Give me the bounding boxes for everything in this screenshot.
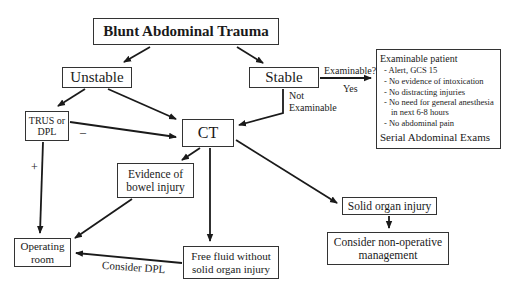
ct-node: CT — [182, 119, 234, 147]
solid-organ-node: Solid organ injury — [342, 197, 437, 215]
not-label: Not — [289, 91, 304, 102]
operating-room-line1: Operating — [21, 240, 65, 252]
bowel-injury-line1: Evidence of — [128, 168, 183, 181]
examinable-criteria-list: - Alert, GCS 15 - No evidence of intoxic… — [380, 66, 500, 130]
criteria-item: - No need for general anesthesia in next… — [384, 98, 500, 118]
bowel-injury-line2: bowel injury — [126, 181, 184, 194]
positive-result-label: + — [31, 161, 38, 174]
arrow-trus-or — [40, 142, 43, 233]
arrow-stable-ct — [239, 89, 283, 125]
arrow-unstable-trus — [58, 89, 85, 106]
trus-label-line1: TRUS or — [29, 115, 65, 126]
non-operative-line1: Consider non-operative — [334, 236, 442, 249]
free-fluid-line2: solid organ injury — [192, 263, 270, 275]
yes-label: Yes — [343, 84, 358, 95]
arrow-title-unstable — [124, 47, 150, 62]
examinable-label: Examinable — [289, 103, 337, 114]
trus-dpl-node: TRUS or DPL — [25, 111, 69, 141]
operating-room-node: Operating room — [14, 238, 71, 267]
non-operative-node: Consider non-operative management — [327, 232, 449, 265]
arrow-evidence-or — [75, 199, 132, 238]
solid-organ-label: Solid organ injury — [348, 200, 431, 213]
criteria-item: - No distracting injuries — [384, 88, 500, 98]
title-text: Blunt Abdominal Trauma — [103, 23, 268, 40]
arrow-unstable-ct — [108, 89, 176, 119]
arrow-title-stable — [237, 47, 263, 63]
free-fluid-node: Free fluid without solid organ injury — [183, 246, 279, 279]
examinable-heading: Examinable patient — [380, 53, 457, 64]
criteria-item: - Alert, GCS 15 — [384, 66, 500, 76]
non-operative-line2: management — [359, 249, 418, 262]
ct-label: CT — [198, 124, 218, 142]
operating-room-line2: room — [31, 253, 54, 265]
free-fluid-line1: Free fluid without — [191, 250, 270, 262]
arrow-ct-evidence — [182, 148, 200, 160]
arrow-ct-solid — [236, 140, 337, 203]
stable-label: Stable — [265, 69, 303, 86]
stable-node: Stable — [249, 67, 319, 88]
criteria-item: - No evidence of intoxication — [384, 77, 500, 87]
examinable-footer: Serial Abdominal Exams — [380, 131, 490, 143]
examinable-patient-node: Examinable patient - Alert, GCS 15 - No … — [376, 49, 501, 149]
examinable-question-label: Examinable? — [324, 66, 376, 77]
trus-label-line2: DPL — [38, 126, 57, 137]
unstable-label: Unstable — [70, 69, 123, 86]
title-node: Blunt Abdominal Trauma — [93, 18, 279, 45]
bowel-injury-node: Evidence of bowel injury — [117, 163, 194, 198]
negative-result-label: – — [80, 126, 86, 139]
criteria-item: - No abdominal pain — [384, 119, 500, 129]
unstable-node: Unstable — [62, 67, 132, 88]
